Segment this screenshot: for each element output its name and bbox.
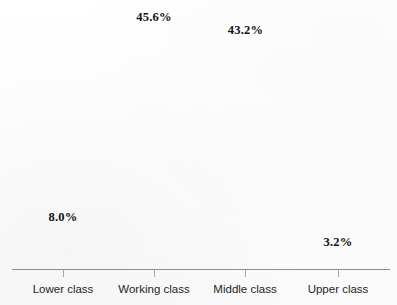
bar-value-middle-class: 43.2% [228,23,263,38]
bar-group-lower-class[interactable]: 8.0% [28,228,98,270]
x-axis-tick-working-class [154,270,155,277]
x-axis-label-upper-class: Upper class [308,283,369,295]
x-axis-label-middle-class: Middle class [213,283,276,295]
x-axis-label-lower-class: Lower class [33,283,94,295]
x-axis-tick-upper-class [338,270,339,277]
x-axis-label-working-class: Working class [118,283,189,295]
bar-chart: 8.0% 45.6% 43.2% 3.2% Lower class Workin… [0,0,397,305]
x-axis-tick-lower-class [63,270,64,277]
bar-value-upper-class: 3.2% [324,235,353,250]
bar-value-working-class: 45.6% [136,10,171,25]
bar-group-upper-class[interactable]: 3.2% [303,253,373,270]
bar-group-working-class[interactable]: 45.6% [120,28,188,270]
plot-area: 8.0% 45.6% 43.2% 3.2% Lower class Workin… [0,0,397,305]
x-axis-line [12,269,390,270]
bar-value-lower-class: 8.0% [49,210,78,225]
x-axis-tick-middle-class [245,270,246,277]
bar-group-middle-class[interactable]: 43.2% [211,41,280,270]
